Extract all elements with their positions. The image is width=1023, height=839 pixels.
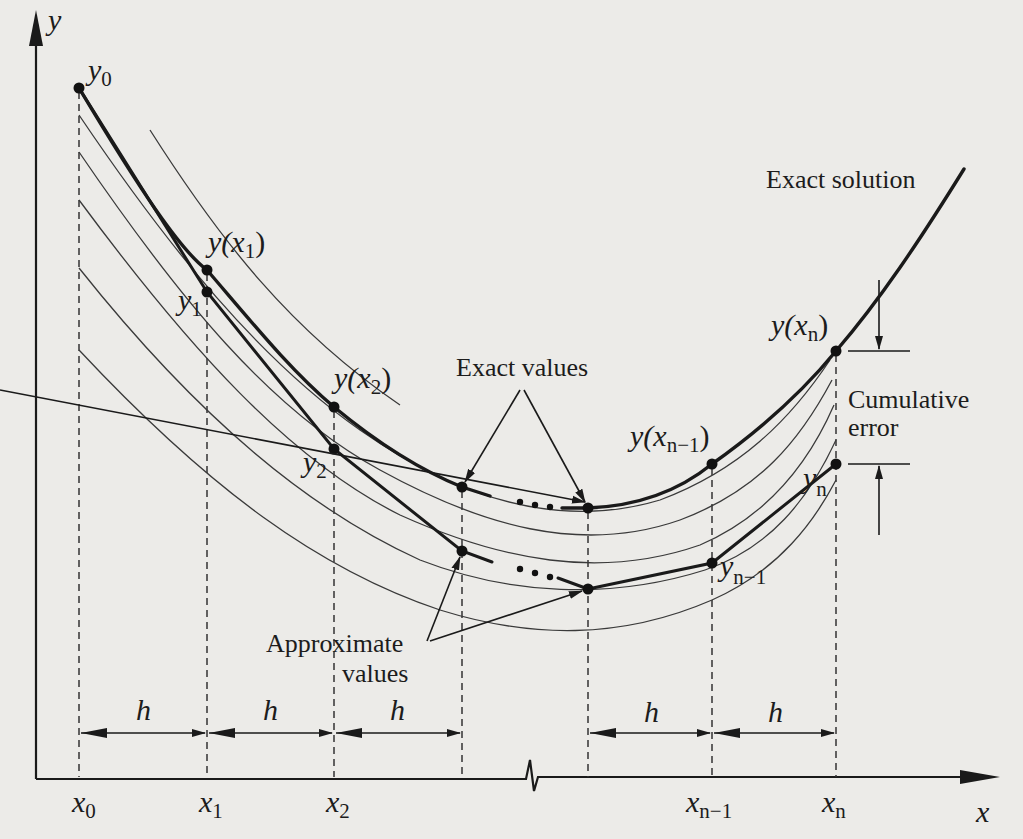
- cumulative-error-diagram: y x y0 y(x1) y1 y(x2) y2 y(xn−1) yn−1 y(…: [0, 0, 1023, 839]
- label-y0: y0: [85, 53, 112, 91]
- label-y-xn-1: y(xn−1): [627, 419, 709, 457]
- labels: y x y0 y(x1) y1 y(x2) y2 y(xn−1) yn−1 y(…: [45, 3, 990, 828]
- annotation-approximate-values-1: Approximate: [266, 629, 403, 658]
- annotation-exact-solution: Exact solution: [766, 165, 915, 194]
- step-label-h-2: h: [263, 693, 278, 726]
- x-axis-arrow-icon: [960, 770, 1000, 784]
- step-size-arrows: [81, 728, 834, 738]
- annotation-cumulative-error-2: error: [848, 413, 899, 442]
- label-y-n-1: yn−1: [717, 549, 766, 589]
- approximate-solution-polyline: [79, 88, 836, 589]
- label-y-x2: y(x2): [331, 361, 391, 399]
- label-y2: y2: [300, 445, 327, 483]
- tick-label-x2: x2: [325, 785, 350, 823]
- step-label-h-3: h: [390, 693, 405, 726]
- y-axis-label: y: [45, 3, 62, 36]
- annotation-cumulative-error-1: Cumulative: [848, 385, 969, 414]
- step-label-h-5: h: [768, 695, 783, 728]
- tick-label-x1: x1: [198, 785, 223, 823]
- approximate-values-pointers: [427, 557, 582, 641]
- x-axis: [36, 760, 990, 791]
- exact-values-pointers: [0, 390, 585, 502]
- tick-label-xn: xn: [821, 785, 846, 823]
- label-y1: y1: [175, 283, 202, 321]
- annotation-approximate-values-2: values: [342, 659, 408, 688]
- step-label-h-4: h: [644, 695, 659, 728]
- tick-label-x0: x0: [71, 785, 96, 823]
- label-y-xn: y(xn): [768, 308, 828, 346]
- annotation-exact-values: Exact values: [456, 353, 588, 382]
- x-axis-label: x: [975, 795, 990, 828]
- label-y-x1: y(x1): [205, 225, 265, 263]
- step-label-h-1: h: [136, 693, 151, 726]
- tick-label-xn-1: xn−1: [685, 785, 732, 823]
- y-axis-arrow-icon: [29, 10, 43, 46]
